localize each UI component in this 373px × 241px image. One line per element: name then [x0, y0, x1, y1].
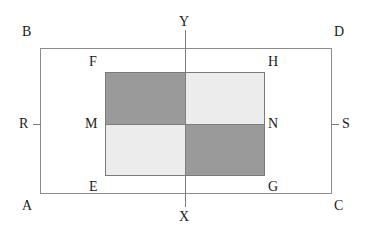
label-s: S [342, 117, 350, 131]
tick-mark-left-r [33, 124, 41, 125]
label-g: G [268, 180, 278, 194]
label-a: A [22, 199, 32, 213]
horizontal-midline [105, 124, 265, 125]
quadrant-bottom-right [185, 124, 264, 175]
label-m: M [85, 117, 97, 131]
label-f: F [89, 55, 97, 69]
label-c: C [334, 199, 343, 213]
quadrant-top-left [106, 73, 185, 124]
label-n: N [268, 117, 278, 131]
vertical-axis-line [185, 30, 186, 207]
label-b: B [22, 25, 31, 39]
diagram-canvas: B D A C F H E G M N R S Y X [0, 0, 373, 241]
tick-mark-right-s [331, 124, 339, 125]
label-e: E [89, 180, 98, 194]
quadrant-top-right [185, 73, 264, 124]
label-d: D [334, 25, 344, 39]
label-h: H [268, 55, 278, 69]
label-r: R [19, 117, 28, 131]
label-x: X [179, 210, 189, 224]
label-y: Y [179, 15, 189, 29]
quadrant-bottom-left [106, 124, 185, 175]
